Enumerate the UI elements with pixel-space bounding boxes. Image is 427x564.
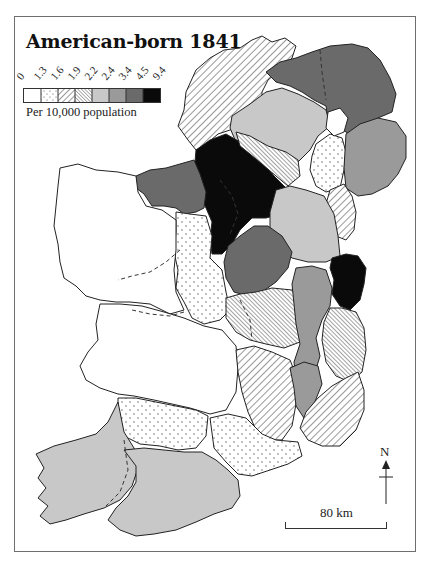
legend-swatch-3 [75,89,92,102]
legend-tick: 4.5 [133,64,151,82]
legend-swatch-7 [143,89,160,102]
region-down [344,118,406,196]
legend-tick: 3.4 [116,64,134,82]
legend-swatch-0 [24,89,41,102]
legend: 0 1.3 1.6 1.9 2.2 2.4 3.4 4.5 9.4 [23,58,163,124]
north-label: N [380,444,389,460]
north-arrow: N [378,444,394,504]
legend-swatch-4 [92,89,109,102]
legend-swatches [23,88,161,103]
region-dublin [330,254,366,310]
scale-bar-line [285,522,387,529]
legend-caption: Per 10,000 population [26,105,137,120]
region-wicklow [322,308,366,382]
north-arrow-icon [378,460,394,504]
legend-swatch-2 [58,89,75,102]
legend-swatch-1 [41,89,58,102]
legend-tick: 1.3 [31,64,49,82]
legend-tick: 2.2 [82,64,100,82]
scale-bar: 80 km [285,505,387,529]
legend-tick: 1.9 [65,64,83,82]
legend-swatch-graphics [24,89,160,102]
legend-swatch-6 [126,89,143,102]
map-title: American-born 1841 [26,30,241,52]
legend-tick: 1.6 [48,64,66,82]
legend-tick: 2.4 [99,64,117,82]
legend-swatch-5 [109,89,126,102]
legend-tick-labels: 0 1.3 1.6 1.9 2.2 2.4 3.4 4.5 9.4 [23,58,163,88]
region-armagh [310,134,346,192]
scale-label: 80 km [320,505,353,521]
